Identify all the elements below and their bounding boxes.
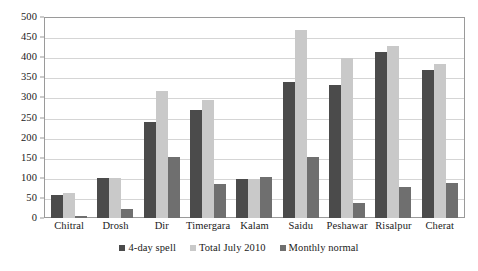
y-tick-label: 150 xyxy=(21,152,37,163)
bar xyxy=(156,91,168,218)
y-axis: 050100150200250300350400450500 xyxy=(0,0,44,219)
legend-label: 4-day spell xyxy=(128,243,175,254)
y-tick-label: 300 xyxy=(21,92,37,103)
bar-group xyxy=(417,17,463,218)
legend-swatch-icon xyxy=(119,245,125,251)
x-tick-label: Dir xyxy=(139,220,185,233)
bar xyxy=(109,178,121,218)
bar-group xyxy=(324,17,370,218)
x-tick-label: Cherat xyxy=(417,220,463,233)
bar xyxy=(144,122,156,218)
bar xyxy=(260,177,272,218)
bar-group xyxy=(139,17,185,218)
bar-chart-figure: 050100150200250300350400450500 ChitralDr… xyxy=(0,0,478,271)
bar xyxy=(214,184,226,218)
y-tick-label: 500 xyxy=(21,12,37,23)
y-tick-label: 0 xyxy=(32,213,37,224)
bar xyxy=(97,178,109,218)
y-tick-label: 450 xyxy=(21,32,37,43)
bar xyxy=(63,193,75,218)
bar xyxy=(121,209,133,218)
bar xyxy=(353,203,365,218)
y-tick-label: 250 xyxy=(21,112,37,123)
bar-group xyxy=(370,17,416,218)
bar xyxy=(236,179,248,218)
legend-item[interactable]: Monthly normal xyxy=(280,243,359,254)
x-tick-label: Drosh xyxy=(92,220,138,233)
legend-label: Monthly normal xyxy=(289,243,359,254)
bar xyxy=(434,64,446,218)
y-tick-label: 100 xyxy=(21,173,37,184)
bar xyxy=(190,110,202,218)
bar xyxy=(283,82,295,218)
bar-group xyxy=(46,17,92,218)
x-tick-label: Chitral xyxy=(46,220,92,233)
bar xyxy=(399,187,411,218)
bar xyxy=(202,100,214,218)
bar xyxy=(248,179,260,218)
chart-legend: 4-day spellTotal July 2010Monthly normal xyxy=(0,243,478,254)
legend-item[interactable]: Total July 2010 xyxy=(190,243,266,254)
bar-group xyxy=(92,17,138,218)
y-tick-label: 400 xyxy=(21,52,37,63)
x-tick-label: Timergara xyxy=(185,220,231,233)
bar xyxy=(375,52,387,218)
bar xyxy=(387,46,399,218)
legend-item[interactable]: 4-day spell xyxy=(119,243,175,254)
legend-label: Total July 2010 xyxy=(199,243,266,254)
bar xyxy=(446,183,458,218)
bar-group xyxy=(231,17,277,218)
bars-layer xyxy=(44,17,465,218)
bar-group xyxy=(278,17,324,218)
bar xyxy=(307,157,319,218)
y-tick-label: 200 xyxy=(21,132,37,143)
x-tick-label: Saidu xyxy=(278,220,324,233)
y-tick-label: 350 xyxy=(21,72,37,83)
x-tick-label: Kalam xyxy=(231,220,277,233)
legend-swatch-icon xyxy=(190,245,196,251)
x-tick-label: Risalpur xyxy=(370,220,416,233)
bar-group xyxy=(185,17,231,218)
x-axis-labels: ChitralDroshDirTimergaraKalamSaiduPeshaw… xyxy=(44,220,465,233)
y-tick-label: 50 xyxy=(26,193,37,204)
x-tick-label: Peshawar xyxy=(324,220,370,233)
bar xyxy=(422,70,434,218)
bar xyxy=(168,157,180,219)
bar xyxy=(341,58,353,218)
bar xyxy=(329,85,341,218)
bar xyxy=(51,195,63,218)
bar xyxy=(295,30,307,218)
legend-swatch-icon xyxy=(280,245,286,251)
bar xyxy=(75,216,87,218)
